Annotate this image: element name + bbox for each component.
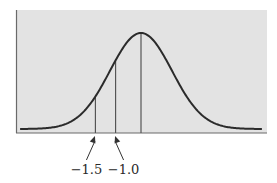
annotations: −1.5−1.0 <box>71 136 140 177</box>
label-z-minus-1-5: −1.5 <box>71 162 103 177</box>
arrow-z-minus-1-0 <box>115 141 124 160</box>
label-z-minus-1-0: −1.0 <box>108 162 140 177</box>
arrow-z-minus-1-5 <box>86 141 95 160</box>
normal-curve-chart: −1.5−1.0 <box>0 0 277 183</box>
arrowhead-z-minus-1-5 <box>90 136 96 144</box>
arrowhead-z-minus-1-0 <box>115 136 121 144</box>
